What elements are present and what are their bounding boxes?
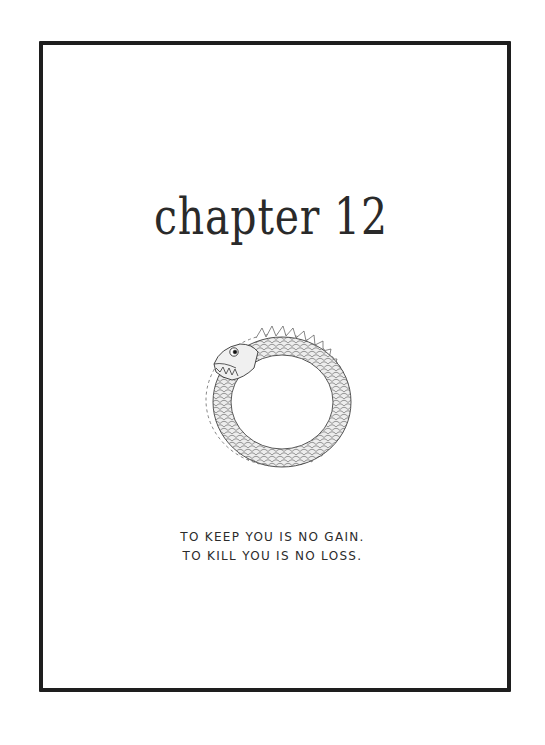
epigraph-line-1: TO KEEP YOU IS NO GAIN. (0, 528, 545, 547)
epigraph: TO KEEP YOU IS NO GAIN. TO KILL YOU IS N… (0, 528, 545, 566)
epigraph-line-2: TO KILL YOU IS NO LOSS. (0, 547, 545, 566)
ouroboros-snake-icon (196, 322, 356, 472)
chapter-title: chapter 12 (48, 188, 495, 246)
